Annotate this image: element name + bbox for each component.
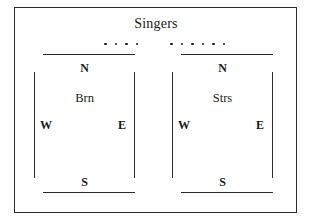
section-brn-west-label: W	[40, 119, 52, 131]
section-brn: N S W E Brn	[34, 52, 135, 196]
section-strs: N S W E Strs	[172, 52, 273, 196]
singers-row-right	[170, 40, 225, 48]
section-brn-east-rule	[134, 72, 135, 178]
singer-dot	[212, 43, 215, 46]
singer-dot	[115, 43, 118, 46]
section-strs-top-rule	[181, 54, 273, 55]
singer-dot	[170, 43, 173, 46]
section-strs-east-rule	[272, 72, 273, 178]
section-strs-bottom-rule	[181, 192, 273, 193]
singer-dot	[136, 43, 139, 46]
diagram-canvas: Singers N S W E Brn N S W E Strs	[0, 0, 312, 221]
section-brn-east-label: E	[118, 119, 126, 131]
section-strs-south-label: S	[172, 176, 273, 188]
singer-dot	[223, 43, 226, 46]
singer-dot	[191, 43, 194, 46]
singers-row-left	[104, 40, 138, 48]
section-brn-bottom-rule	[43, 192, 135, 193]
section-brn-west-rule	[34, 72, 35, 178]
section-strs-west-rule	[172, 72, 173, 178]
section-brn-label: Brn	[34, 92, 135, 105]
section-strs-label: Strs	[172, 92, 273, 105]
section-strs-east-label: E	[256, 119, 264, 131]
section-strs-north-label: N	[172, 62, 273, 74]
singer-dot	[181, 43, 184, 46]
singer-dot	[125, 43, 128, 46]
page-title: Singers	[0, 16, 312, 32]
section-brn-top-rule	[43, 54, 135, 55]
section-strs-west-label: W	[178, 119, 190, 131]
section-brn-north-label: N	[34, 62, 135, 74]
section-brn-south-label: S	[34, 176, 135, 188]
singer-dot	[104, 43, 107, 46]
singer-dot	[202, 43, 205, 46]
